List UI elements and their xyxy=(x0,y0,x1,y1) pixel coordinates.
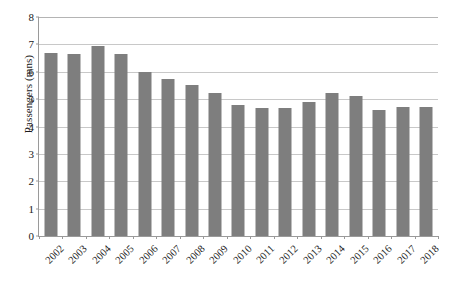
x-tick-label: 2003 xyxy=(66,243,89,266)
x-tick-label: 2007 xyxy=(160,243,183,266)
x-tick-label: 2018 xyxy=(418,243,441,266)
x-tick-mark xyxy=(39,236,40,239)
x-tick-label: 2013 xyxy=(301,243,324,266)
bar[interactable] xyxy=(44,53,57,236)
bar-slot xyxy=(227,17,250,236)
bar-slot xyxy=(344,17,367,236)
bar[interactable] xyxy=(185,85,198,236)
x-tick-mark xyxy=(297,236,298,239)
bar-slot xyxy=(109,17,132,236)
y-tick-label: 0 xyxy=(29,230,35,242)
x-tick-label: 2017 xyxy=(395,243,418,266)
x-tick-label: 2002 xyxy=(43,243,66,266)
x-tick-label: 2009 xyxy=(207,243,230,266)
y-tick-label: 2 xyxy=(29,175,35,187)
x-tick-label: 2010 xyxy=(231,243,254,266)
y-tick-label: 3 xyxy=(29,148,35,160)
bar-slot xyxy=(39,17,62,236)
bar[interactable] xyxy=(68,54,81,236)
bar-slot xyxy=(321,17,344,236)
x-tick-mark xyxy=(438,236,439,239)
bar-slot xyxy=(62,17,85,236)
bar[interactable] xyxy=(138,72,151,236)
x-tick-mark xyxy=(250,236,251,239)
bar[interactable] xyxy=(349,96,362,236)
bar-slot xyxy=(250,17,273,236)
bar-slot xyxy=(368,17,391,236)
x-tick-mark xyxy=(368,236,369,239)
bar-slot xyxy=(391,17,414,236)
x-tick-label: 2005 xyxy=(113,243,136,266)
x-tick-mark xyxy=(62,236,63,239)
bar-slot xyxy=(203,17,226,236)
y-tick-label: 7 xyxy=(29,38,35,50)
bar[interactable] xyxy=(115,54,128,236)
bar[interactable] xyxy=(255,108,268,236)
y-tick-label: 4 xyxy=(29,121,35,133)
y-tick-label: 6 xyxy=(29,66,35,78)
bar[interactable] xyxy=(326,93,339,236)
x-tick-label: 2008 xyxy=(184,243,207,266)
x-tick-mark xyxy=(180,236,181,239)
bar[interactable] xyxy=(302,102,315,236)
bar-slot xyxy=(415,17,438,236)
bar[interactable] xyxy=(162,79,175,236)
x-tick-mark xyxy=(156,236,157,239)
x-tick-mark xyxy=(274,236,275,239)
bar[interactable] xyxy=(373,110,386,236)
x-tick-label: 2011 xyxy=(254,243,276,265)
x-tick-label: 2014 xyxy=(325,243,348,266)
x-tick-label: 2015 xyxy=(348,243,371,266)
bars xyxy=(39,17,438,236)
bar[interactable] xyxy=(232,105,245,236)
bar-slot xyxy=(133,17,156,236)
bar-slot xyxy=(297,17,320,236)
x-tick-mark xyxy=(391,236,392,239)
x-tick-mark xyxy=(415,236,416,239)
x-tick-mark xyxy=(321,236,322,239)
bar-slot xyxy=(156,17,179,236)
bar-slot xyxy=(274,17,297,236)
y-tick-label: 8 xyxy=(29,11,35,23)
x-tick-mark xyxy=(109,236,110,239)
bar[interactable] xyxy=(396,107,409,236)
bar[interactable] xyxy=(420,107,433,236)
plot-area: 012345678 200220032004200520062007200820… xyxy=(38,17,438,237)
x-tick-mark xyxy=(344,236,345,239)
x-tick-mark xyxy=(227,236,228,239)
x-tick-label: 2004 xyxy=(90,243,113,266)
x-tick-label: 2006 xyxy=(137,243,160,266)
bar[interactable] xyxy=(209,93,222,236)
x-tick-mark xyxy=(86,236,87,239)
y-tick-label: 1 xyxy=(29,203,35,215)
x-tick-mark xyxy=(133,236,134,239)
y-tick-label: 5 xyxy=(29,93,35,105)
x-tick-label: 2016 xyxy=(371,243,394,266)
bar[interactable] xyxy=(279,108,292,236)
bar-slot xyxy=(180,17,203,236)
bar-chart: Passengers (mns) 012345678 2002200320042… xyxy=(0,0,451,281)
x-tick-label: 2012 xyxy=(278,243,301,266)
x-tick-mark xyxy=(203,236,204,239)
bar[interactable] xyxy=(91,46,104,236)
bar-slot xyxy=(86,17,109,236)
